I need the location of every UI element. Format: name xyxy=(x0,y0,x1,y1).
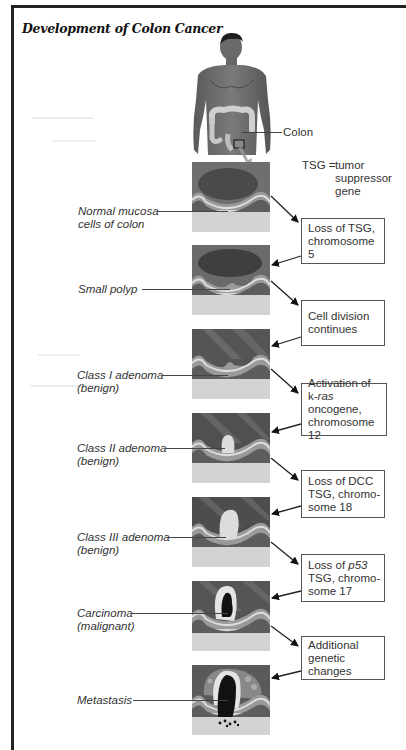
stage-label-line1: Normal mucosa xyxy=(78,205,159,218)
p53-gene-name: p53 xyxy=(348,559,367,571)
tsg-legend-abbr: TSG = xyxy=(302,159,336,172)
kras-prefix: k- xyxy=(308,390,318,402)
arrow-to-panel-4 xyxy=(272,424,301,432)
tissue-panel-class-iii-adenoma xyxy=(192,497,270,567)
stage-label-line2: cells of colon xyxy=(78,218,144,231)
transition-line: some 17 xyxy=(308,585,384,598)
arrow-to-box-6 xyxy=(271,626,298,646)
transition-box-cell-division: Cell division continues xyxy=(301,300,385,346)
stage-leader-line xyxy=(166,537,226,538)
stage-leader-line xyxy=(133,700,228,701)
transition-line: changes xyxy=(308,665,384,678)
transition-box-kras-activation: Activation of k-ras oncogene, chromosome… xyxy=(301,383,387,436)
tissue-panel-small-polyp xyxy=(192,245,270,315)
stage-label-line2: (benign) xyxy=(77,382,119,395)
colon-label: Colon xyxy=(283,126,313,139)
transition-line: Cell division xyxy=(308,310,384,323)
transition-line: chromosome 5 xyxy=(308,235,384,261)
transition-line: Loss of DCC xyxy=(308,475,384,488)
stage-leader-line xyxy=(162,375,228,376)
tissue-panel-normal xyxy=(192,162,270,232)
arrow-to-panel-2 xyxy=(272,256,301,265)
arrow-to-box-5 xyxy=(271,542,298,564)
stage-label-line1: Class I adenoma xyxy=(77,369,163,382)
transition-line: TSG, chromo- xyxy=(308,572,384,585)
stage-label-line1: Carcinoma xyxy=(77,607,133,620)
stage-label-line2: (benign) xyxy=(77,544,119,557)
stage-label-line1: Class II adenoma xyxy=(77,442,167,455)
transition-line: Loss of p53 xyxy=(308,559,384,572)
frame-top-border xyxy=(11,5,406,8)
arrow-to-panel-5 xyxy=(272,506,301,514)
transition-box-additional-changes: Additional genetic changes xyxy=(301,636,385,680)
transition-line: continues xyxy=(308,323,384,336)
stage-label-line1: Class III adenoma xyxy=(77,531,170,544)
tsg-legend-line1: tumor xyxy=(335,159,364,172)
stage-leader-line xyxy=(157,211,228,212)
transition-box-loss-p53-chr17: Loss of p53 TSG, chromo- some 17 xyxy=(301,554,385,602)
kras-suffix: oncogene, xyxy=(308,403,362,415)
tsg-abbr: TSG xyxy=(302,159,326,171)
tsg-legend-line2: suppressor xyxy=(335,172,392,185)
colon-leader-line xyxy=(242,132,282,133)
stage-label-line2: (malignant) xyxy=(77,620,135,633)
arrow-to-box-4 xyxy=(271,458,298,480)
transition-line: Loss of TSG, xyxy=(308,222,384,235)
arrow-to-box-2 xyxy=(271,281,298,305)
transition-line: k-ras oncogene, xyxy=(308,390,386,416)
tissue-panel-carcinoma xyxy=(192,581,270,651)
stage-leader-line xyxy=(132,613,228,614)
arrow-to-box-3 xyxy=(271,369,298,393)
transition-line: chromosome 12 xyxy=(308,416,386,442)
stage-label-line1: Small polyp xyxy=(78,283,137,296)
stage-label-line2: (benign) xyxy=(77,455,119,468)
arrow-to-panel-6 xyxy=(272,591,301,598)
tsg-legend-line3: gene xyxy=(335,185,361,198)
scan-smudge xyxy=(32,117,94,119)
arrow-to-panel-7 xyxy=(272,671,301,678)
transition-box-loss-tsg-chr5: Loss of TSG, chromosome 5 xyxy=(301,218,385,264)
stage-leader-line xyxy=(165,448,225,449)
scan-smudge xyxy=(52,140,96,142)
stage-leader-line xyxy=(142,289,230,290)
human-figure-illustration xyxy=(184,30,280,170)
arrow-to-box-1 xyxy=(271,196,298,222)
scan-smudge xyxy=(38,354,80,356)
kras-gene-name: ras xyxy=(318,390,334,402)
transition-line: TSG, chromo- xyxy=(308,488,384,501)
transition-box-loss-dcc-chr18: Loss of DCC TSG, chromo- some 18 xyxy=(301,470,385,518)
stage-label-line1: Metastasis xyxy=(77,694,132,707)
frame-left-border xyxy=(11,5,14,750)
p53-prefix: Loss of xyxy=(308,559,348,571)
tissue-panel-class-i-adenoma xyxy=(192,329,270,399)
transition-line: Additional xyxy=(308,639,384,652)
transition-line: genetic xyxy=(308,652,384,665)
transition-line: Activation of xyxy=(308,377,386,390)
arrow-to-panel-3 xyxy=(272,337,301,346)
transition-line: some 18 xyxy=(308,501,384,514)
